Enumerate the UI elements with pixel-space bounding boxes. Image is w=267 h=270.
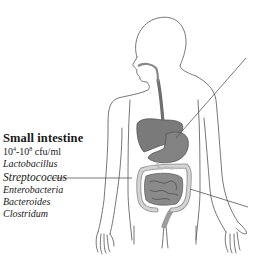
label-title: Small intestine — [3, 131, 83, 145]
organism-streptococcus: Streptococcus — [3, 170, 83, 184]
left-arm-inner — [110, 128, 122, 234]
organism-enterobacteria: Enterobacteria — [3, 184, 83, 196]
torso-right — [196, 100, 200, 240]
right-arm-inner — [204, 118, 226, 232]
leader-line-stomach — [176, 58, 246, 138]
head-outline — [136, 17, 196, 76]
torso-left — [128, 100, 132, 240]
leader-line-large-intestine — [190, 189, 248, 207]
organism-clostridum: Clostridum — [3, 208, 83, 220]
left-shoulder — [98, 90, 148, 232]
left-hand — [96, 232, 114, 254]
small-intestine — [145, 173, 183, 205]
right-shoulder — [196, 76, 238, 222]
face-profile — [133, 57, 150, 90]
organism-lactobacillus: Lactobacillus — [3, 158, 83, 170]
organism-bacteroides: Bacteroides — [3, 196, 83, 208]
bacterial-count: 104-108 cfu/ml — [3, 145, 83, 158]
mouth-cavity — [138, 64, 158, 82]
esophagus — [158, 80, 163, 122]
small-intestine-label: Small intestine 104-108 cfu/ml Lactobaci… — [3, 131, 83, 220]
right-hand — [225, 222, 246, 253]
legs — [134, 226, 196, 248]
